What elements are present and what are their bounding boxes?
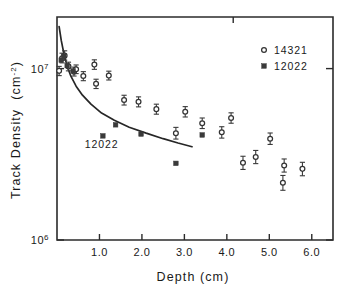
figure-container: 1.02.03.04.05.06.0 106107 12022 14321120… xyxy=(0,0,349,293)
model-curve-12022 xyxy=(59,27,192,147)
x-tick-label: 1.0 xyxy=(91,246,108,258)
data-point-circle xyxy=(154,107,159,112)
data-point-circle xyxy=(253,155,258,160)
data-point-circle xyxy=(268,136,273,141)
data-point-square xyxy=(200,133,205,138)
series-14321 xyxy=(57,51,306,190)
y-tick-label: 106 xyxy=(31,233,49,246)
x-tick-label: 6.0 xyxy=(303,246,320,258)
data-point-circle xyxy=(300,166,305,171)
x-tick-label: 5.0 xyxy=(261,246,278,258)
data-point-circle xyxy=(94,81,99,86)
data-point-circle xyxy=(280,180,285,185)
y-axis-title-main: Track Density xyxy=(9,109,23,199)
legend-marker-circle xyxy=(262,48,267,53)
data-point-circle xyxy=(122,98,127,103)
data-point-circle xyxy=(106,73,111,78)
data-point-circle xyxy=(219,130,224,135)
legend-marker-square xyxy=(262,64,267,69)
data-point-square xyxy=(139,132,144,137)
x-axis-tick-labels: 1.02.03.04.05.06.0 xyxy=(91,246,320,258)
data-point-circle xyxy=(183,109,188,114)
data-point-square xyxy=(71,69,76,74)
data-series xyxy=(57,51,306,190)
legend-label-12022: 12022 xyxy=(274,60,308,72)
x-tick-label: 2.0 xyxy=(134,246,151,258)
track-density-vs-depth-chart: 1.02.03.04.05.06.0 106107 12022 14321120… xyxy=(0,0,349,293)
data-point-circle xyxy=(81,74,86,79)
y-axis-title-exponent: -2 xyxy=(9,66,18,75)
x-tick-label: 4.0 xyxy=(218,246,235,258)
y-tick-label: 107 xyxy=(31,62,49,75)
data-point-circle xyxy=(241,160,246,165)
data-point-circle xyxy=(57,68,62,73)
y-axis-title-close-paren: ) xyxy=(9,61,23,66)
x-axis-title: Depth (cm) xyxy=(157,270,230,284)
series-12022 xyxy=(59,54,205,166)
data-point-circle xyxy=(92,62,97,67)
data-point-square xyxy=(61,54,66,59)
data-point-square xyxy=(113,123,118,128)
model-curves xyxy=(59,27,192,147)
data-point-circle xyxy=(173,131,178,136)
data-point-circle xyxy=(229,116,234,121)
curve-annotations: 12022 xyxy=(85,138,119,150)
data-point-circle xyxy=(136,99,141,104)
data-point-square xyxy=(101,134,106,139)
data-point-circle xyxy=(282,163,287,168)
legend: 1432112022 xyxy=(262,44,308,72)
legend-label-14321: 14321 xyxy=(274,44,308,56)
data-point-square xyxy=(65,63,70,68)
data-point-circle xyxy=(200,121,205,126)
y-axis-title: Track Density (cm-2) xyxy=(9,61,23,199)
x-tick-label: 3.0 xyxy=(176,246,193,258)
data-point-square xyxy=(174,161,179,166)
y-axis-ticks xyxy=(57,69,333,240)
y-axis-title-group: Track Density (cm-2) xyxy=(9,61,23,199)
y-axis-tick-labels: 106107 xyxy=(31,62,49,246)
curve-label: 12022 xyxy=(85,138,119,150)
y-axis-title-unit: (cm xyxy=(9,76,23,100)
